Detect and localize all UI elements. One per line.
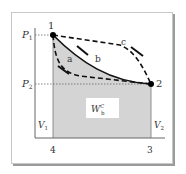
point-1: [50, 32, 56, 38]
p2-label: P2: [21, 78, 33, 90]
path-c-label: c: [121, 37, 126, 47]
point-1-label: 1: [48, 20, 54, 31]
path-b-label: b: [95, 54, 101, 64]
path-a-label: a: [67, 54, 73, 64]
point-2-label: 2: [156, 78, 162, 89]
v1-label: V1: [38, 120, 48, 131]
x-tick-4: 4: [50, 145, 56, 155]
arrow-b-icon: [77, 46, 88, 55]
p1-label: P1: [21, 29, 33, 41]
point-2: [148, 81, 154, 87]
x-tick-3: 3: [147, 145, 153, 155]
v2-label: V2: [154, 120, 164, 131]
pv-diagram: 1 2 a b c P1 P2 V1 V2 4 3 WCb: [0, 0, 186, 174]
